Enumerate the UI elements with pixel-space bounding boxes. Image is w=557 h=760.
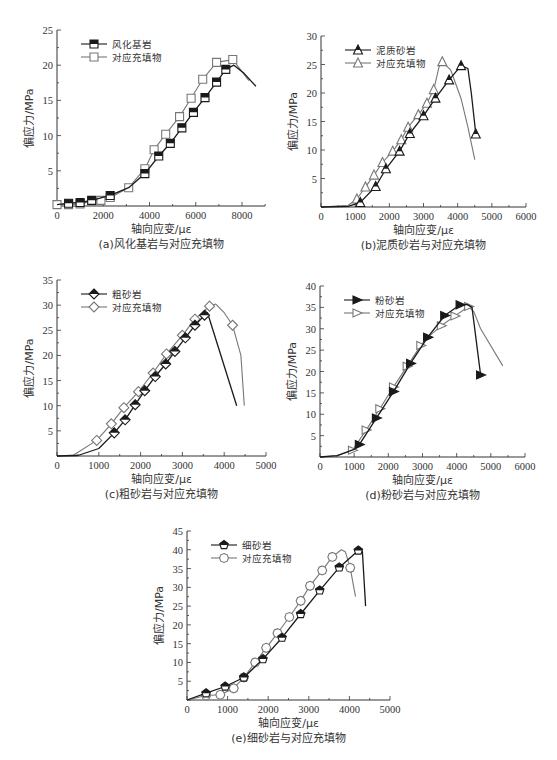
chart-panel-d: 0100020003000400050006000510152025303540… (285, 281, 536, 502)
circle-marker-icon (220, 554, 229, 563)
series-line (57, 65, 256, 204)
chart-panel-b: 010002000300040005000600051015202530轴向应变… (286, 31, 537, 252)
series-rock (320, 301, 486, 457)
panel-caption: (d)粉砂岩与对应充填物 (365, 488, 480, 502)
data-point-marker (229, 684, 238, 693)
y-tick-label: 40 (306, 281, 317, 292)
y-tick-label: 25 (307, 60, 318, 71)
x-tick-label: 1000 (88, 460, 109, 471)
x-tick-label: 2000 (130, 460, 151, 471)
x-tick-label: 3000 (172, 460, 193, 471)
chart-panel-c: 0100020003000400050005101520253035轴向应变/μ… (22, 275, 277, 501)
y-tick-label: 35 (173, 564, 184, 575)
triangle-marker-icon (353, 296, 362, 304)
x-tick-label: 4000 (446, 461, 467, 472)
series-rock (321, 61, 480, 207)
x-tick-label: 0 (184, 704, 189, 715)
y-tick-label: 30 (173, 582, 184, 593)
series-rock (187, 546, 366, 700)
figure-canvas: 02000400060008000510152025轴向应变/με偏应力/MPa… (0, 0, 557, 760)
legend-label: 泥质砂岩 (376, 45, 416, 56)
y-tick-label: 10 (43, 401, 54, 412)
data-point-marker (216, 690, 225, 699)
data-point-marker (328, 552, 337, 561)
x-tick-label: 4000 (339, 704, 360, 715)
x-tick-label: 6000 (515, 461, 536, 472)
x-axis-title: 轴向应变/με (258, 716, 319, 730)
y-axis-title: 偏应力/MPa (286, 92, 300, 151)
legend-label: 对应充填物 (112, 302, 162, 313)
y-tick-label: 20 (43, 350, 54, 361)
y-tick-label: 35 (306, 302, 317, 313)
x-tick-label: 5000 (380, 704, 401, 715)
x-tick-label: 6000 (516, 211, 537, 222)
x-tick-label: 3000 (298, 704, 319, 715)
legend-label: 粉砂岩 (375, 295, 405, 306)
y-tick-label: 5 (312, 174, 317, 185)
data-point-marker (285, 613, 294, 622)
x-tick-label: 5000 (480, 461, 501, 472)
legend: 细砂岩对应充填物 (211, 540, 292, 564)
legend-label: 对应充填物 (242, 553, 292, 564)
y-tick-label: 5 (48, 166, 53, 177)
y-tick-label: 20 (173, 620, 184, 631)
x-tick-label: 6000 (185, 210, 206, 221)
legend-label: 风化基岩 (112, 39, 152, 50)
data-point-marker (228, 320, 238, 330)
series-filling (187, 550, 356, 700)
data-point-marker (372, 414, 381, 422)
y-tick-label: 30 (307, 31, 318, 42)
x-tick-label: 1000 (344, 461, 365, 472)
chart-panel-e: 01000200030004000500051015202530354045轴向… (152, 526, 401, 745)
x-tick-label: 2000 (258, 704, 279, 715)
x-tick-label: 4000 (447, 211, 468, 222)
y-axis-title: 偏应力/MPa (285, 342, 299, 401)
panel-caption: (e)细砂岩与对应充填物 (231, 731, 345, 745)
series-line (320, 304, 481, 457)
y-axis-title: 偏应力/MPa (22, 88, 36, 147)
x-tick-label: 2000 (379, 211, 400, 222)
x-tick-label: 2000 (93, 210, 114, 221)
data-point-marker (429, 85, 438, 94)
x-axis-title: 轴向应变/με (131, 472, 192, 486)
y-tick-label: 10 (307, 145, 318, 156)
y-tick-label: 5 (178, 676, 183, 687)
data-point-marker (251, 658, 260, 667)
x-axis-title: 轴向应变/με (131, 222, 192, 236)
y-tick-label: 15 (43, 376, 54, 387)
series-line (187, 551, 366, 701)
legend-label: 对应充填物 (376, 58, 426, 69)
x-tick-label: 5000 (256, 460, 277, 471)
series-rock (57, 310, 237, 456)
triangle-marker-icon (353, 309, 362, 317)
x-tick-label: 1000 (345, 211, 366, 222)
y-axis-title: 偏应力/MPa (22, 338, 36, 397)
x-tick-label: 8000 (232, 210, 253, 221)
data-point-marker (438, 57, 447, 66)
x-tick-label: 0 (54, 460, 59, 471)
data-point-marker (456, 301, 465, 309)
y-tick-label: 5 (48, 426, 53, 437)
data-point-marker (355, 441, 364, 449)
y-tick-label: 35 (43, 275, 54, 286)
y-tick-label: 15 (307, 117, 318, 128)
data-point-marker (346, 563, 355, 572)
x-tick-label: 3000 (412, 461, 433, 472)
series-line (57, 313, 237, 456)
y-tick-label: 15 (173, 639, 184, 650)
y-tick-label: 25 (43, 25, 54, 36)
y-tick-label: 20 (307, 88, 318, 99)
data-point-marker (229, 56, 237, 64)
data-point-marker (176, 113, 184, 121)
y-tick-label: 30 (43, 300, 54, 311)
series-line (57, 304, 244, 456)
data-point-marker (306, 581, 315, 590)
legend: 风化基岩对应充填物 (81, 39, 162, 63)
legend: 粗砂岩对应充填物 (81, 289, 162, 313)
y-tick-label: 25 (173, 601, 184, 612)
x-tick-label: 0 (317, 461, 322, 472)
y-axis-title: 偏应力/MPa (152, 586, 166, 645)
y-tick-label: 10 (173, 657, 184, 668)
x-tick-label: 0 (54, 210, 59, 221)
x-tick-label: 1000 (217, 704, 238, 715)
